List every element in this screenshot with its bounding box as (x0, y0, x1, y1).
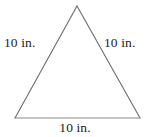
triangle-figure: 10 in. 10 in. 10 in. (0, 0, 150, 137)
bottom-side-length-label: 10 in. (0, 121, 150, 135)
triangle-left-side (15, 6, 77, 118)
right-side-length-label: 10 in. (104, 36, 135, 50)
left-side-length-label: 10 in. (4, 36, 35, 50)
triangle-right-side (77, 6, 140, 118)
triangle-shape (0, 0, 150, 137)
